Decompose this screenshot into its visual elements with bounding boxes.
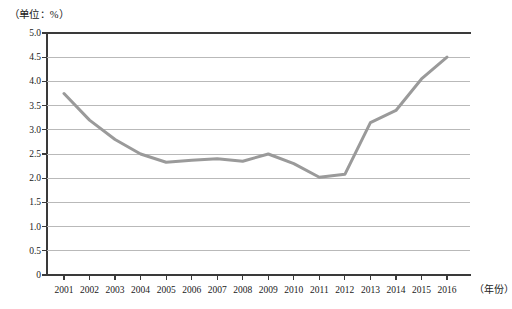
y-axis-tick-label: 3.0 — [11, 125, 41, 135]
x-axis-tick — [89, 275, 90, 280]
y-axis-tick-label: 4.5 — [11, 52, 41, 62]
y-axis-tick-label: 5.0 — [11, 28, 41, 38]
x-axis-labels: 2001200220032004200520062007200820092010… — [47, 284, 470, 300]
y-axis-tick-label: 2.0 — [11, 173, 41, 183]
x-axis-tick — [421, 275, 422, 280]
y-axis-tick-label: 1.0 — [11, 222, 41, 232]
x-axis-title: （年份） — [474, 284, 512, 296]
y-axis-labels: 00.51.01.52.02.53.03.54.04.55.0 — [9, 33, 41, 275]
x-axis-tick — [166, 275, 167, 280]
x-axis-tick — [114, 275, 115, 280]
y-axis-tick-label: 1.5 — [11, 197, 41, 207]
x-axis-tick — [63, 275, 64, 280]
x-axis-tick — [395, 275, 396, 280]
x-axis-tick — [446, 275, 447, 280]
x-axis-tick — [217, 275, 218, 280]
unit-caption: （单位：%） — [9, 8, 69, 21]
y-axis-tick-label: 2.5 — [11, 149, 41, 159]
x-axis-tick — [370, 275, 371, 280]
plot-area — [47, 33, 470, 275]
x-axis-tick — [191, 275, 192, 280]
x-axis-tick — [140, 275, 141, 280]
x-axis-tick — [242, 275, 243, 280]
y-axis-tick-label: 0.5 — [11, 246, 41, 256]
series-polyline — [64, 57, 447, 177]
x-axis-tick-label: 2016 — [427, 284, 467, 296]
y-axis-tick-label: 4.0 — [11, 76, 41, 86]
x-axis-tick — [319, 275, 320, 280]
x-axis-tick — [268, 275, 269, 280]
y-axis-tick-label: 0 — [11, 270, 41, 280]
x-axis-tick — [344, 275, 345, 280]
y-axis-tick-label: 3.5 — [11, 101, 41, 111]
x-axis-tick — [293, 275, 294, 280]
series-line — [47, 33, 470, 275]
